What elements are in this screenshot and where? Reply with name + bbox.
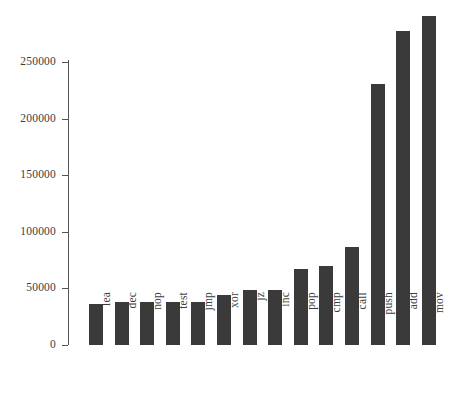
x-axis-tick-label-inc: inc bbox=[280, 292, 292, 352]
x-axis-tick-label-push: push bbox=[383, 292, 395, 352]
x-axis-tick-label-call: call bbox=[357, 292, 369, 352]
x-axis-tick-label-mov: mov bbox=[434, 292, 446, 352]
x-axis-tick-label-xor: xor bbox=[229, 292, 241, 352]
x-axis-tick-label-dec: dec bbox=[127, 292, 139, 352]
x-axis-tick-label-test: test bbox=[178, 292, 190, 352]
x-axis-tick-label-jmp: jmp bbox=[203, 292, 215, 352]
bar-chart: 050000100000150000200000250000 leadecnop… bbox=[0, 0, 462, 413]
x-axis-tick-label-nop: nop bbox=[152, 292, 164, 352]
x-axis-tick-label-jz: jz bbox=[255, 292, 267, 352]
x-axis-tick-label-lea: lea bbox=[101, 292, 113, 352]
x-axis-tick-label-cmp: cmp bbox=[331, 292, 343, 352]
x-axis-tick-label-pop: pop bbox=[306, 292, 318, 352]
x-axis-tick-label-add: add bbox=[408, 292, 420, 352]
